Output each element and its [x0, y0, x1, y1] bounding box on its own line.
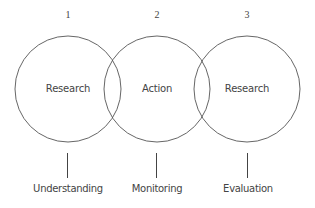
stage-number-2: 2	[147, 9, 167, 20]
connector-line-1	[67, 153, 68, 178]
stage-number-1: 1	[58, 9, 78, 20]
circle-label-research-3: Research	[207, 83, 287, 94]
outcome-label-understanding: Understanding	[23, 183, 113, 194]
stage-number-3: 3	[237, 9, 257, 20]
connector-line-2	[156, 153, 157, 178]
overlapping-circles	[0, 0, 315, 208]
outcome-label-monitoring: Monitoring	[112, 183, 202, 194]
research-action-cycle-diagram: 1 2 3 Research Action Research Understan…	[0, 0, 315, 208]
connector-line-3	[247, 153, 248, 178]
outcome-label-evaluation: Evaluation	[203, 183, 293, 194]
circle-label-action: Action	[117, 83, 197, 94]
circle-label-research-1: Research	[28, 83, 108, 94]
